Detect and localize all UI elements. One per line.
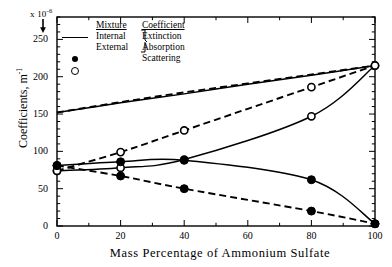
y-tick-label-50: 50 xyxy=(22,183,48,194)
series-line-external-absorption xyxy=(57,166,375,224)
data-point-filled-circle-80 xyxy=(307,207,315,215)
y-tick-label-100: 100 xyxy=(22,145,48,156)
data-point-filled-circle-80 xyxy=(307,176,315,184)
data-point-filled-circle-0 xyxy=(53,162,61,170)
data-point-open-circle-100 xyxy=(371,62,378,69)
y-tick-label-150: 150 xyxy=(22,108,48,119)
data-point-open-circle-80 xyxy=(308,113,315,120)
x-tick-label-80: 80 xyxy=(296,230,326,241)
data-point-filled-circle-40 xyxy=(180,156,188,164)
data-point-open-circle-80 xyxy=(308,84,315,91)
legend-mixture-external: External xyxy=(96,42,142,53)
y-tick-label-250: 250 xyxy=(22,33,48,44)
data-point-filled-circle-20 xyxy=(117,172,125,180)
plot-area xyxy=(0,0,392,267)
legend-coefficient-absorption: Absorption xyxy=(142,42,185,53)
legend-brace-icon xyxy=(139,29,148,55)
legend-symbol-solid-line xyxy=(62,37,88,38)
data-point-filled-circle-20 xyxy=(117,158,125,166)
data-point-open-circle-20 xyxy=(117,149,124,156)
legend-symbol-open-circle xyxy=(71,67,79,75)
data-point-filled-circle-40 xyxy=(180,185,188,193)
y-tick-label-200: 200 xyxy=(22,71,48,82)
legend-symbol-filled-circle xyxy=(72,56,78,62)
series-line-external-scattering xyxy=(57,66,375,171)
legend-header-coefficient: Coefficient xyxy=(142,20,185,31)
x-tick-label-100: 100 xyxy=(360,230,390,241)
data-point-open-circle-40 xyxy=(181,127,188,134)
data-markers-group xyxy=(53,62,379,228)
series-line-internal-scattering xyxy=(57,66,375,171)
chart-figure: x 10-6 Coefficients, m-1 Mass Percentage… xyxy=(0,0,392,267)
legend-mixture-internal: Internal xyxy=(96,31,142,42)
data-point-filled-circle-100 xyxy=(371,220,379,228)
x-tick-label-0: 0 xyxy=(42,230,72,241)
x-tick-label-20: 20 xyxy=(106,230,136,241)
x-tick-label-60: 60 xyxy=(233,230,263,241)
x-tick-label-40: 40 xyxy=(169,230,199,241)
data-series-group xyxy=(57,66,375,224)
legend-header-mixture: Mixture xyxy=(96,20,142,31)
